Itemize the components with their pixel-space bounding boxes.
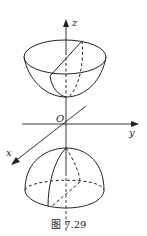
figure-canvas: z y x O 图 7.29 xyxy=(0,0,147,236)
z-axis-label: z xyxy=(71,17,78,28)
x-axis xyxy=(14,106,86,162)
x-axis-label: x xyxy=(6,147,12,158)
figure-caption: 图 7.29 xyxy=(51,219,86,230)
lower-hemisphere xyxy=(25,148,104,208)
y-axis-label: y xyxy=(128,127,135,138)
origin-label: O xyxy=(56,113,64,124)
upper-paraboloid xyxy=(24,40,106,97)
z-arrow-icon xyxy=(63,19,69,27)
